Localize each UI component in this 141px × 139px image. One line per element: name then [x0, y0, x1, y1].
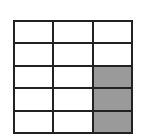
shaded-cell	[93, 88, 132, 110]
shaded-cell	[93, 66, 132, 88]
grid-cell	[14, 21, 53, 43]
grid-cell	[53, 66, 92, 88]
grid-cell	[14, 111, 53, 133]
grid-cell	[53, 88, 92, 110]
grid-cell	[53, 111, 92, 133]
grid-cell	[93, 21, 132, 43]
grid-cell	[14, 66, 53, 88]
fraction-grid	[13, 20, 133, 134]
grid-cell	[14, 88, 53, 110]
shaded-cell	[93, 111, 132, 133]
grid-cell	[53, 21, 92, 43]
grid-cell	[93, 43, 132, 65]
grid-cell	[53, 43, 92, 65]
grid-cell	[14, 43, 53, 65]
